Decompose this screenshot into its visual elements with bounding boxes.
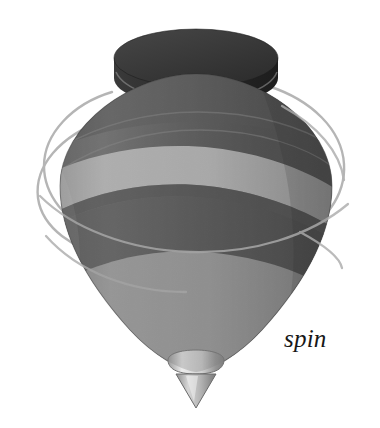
spin-caption: spin [284,326,326,351]
spinning-top-figure: spin [0,0,380,428]
spinning-top-illustration [0,0,380,428]
